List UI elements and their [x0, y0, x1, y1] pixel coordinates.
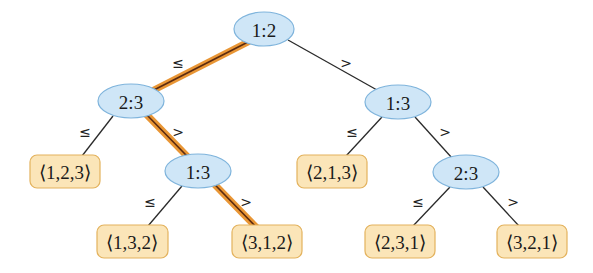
- edge-label-n4-l4: >: [240, 194, 252, 210]
- leaf-node-l6: ⟨3,2,1⟩: [497, 225, 567, 258]
- edge-label-n1-n3: >: [340, 55, 352, 71]
- svg-text:1:3: 1:3: [386, 93, 410, 114]
- svg-text:2:3: 2:3: [454, 163, 478, 184]
- leaf-node-l5: ⟨2,3,1⟩: [365, 225, 435, 258]
- internal-node-n1: 1:2: [234, 12, 294, 46]
- svg-text:⟨1,3,2⟩: ⟨1,3,2⟩: [106, 232, 158, 253]
- edge-label-n3-l2: ≤: [346, 124, 358, 140]
- svg-text:⟨2,1,3⟩: ⟨2,1,3⟩: [306, 162, 358, 183]
- svg-text:2:3: 2:3: [119, 92, 143, 113]
- decision-tree-diagram: ≤ > ≤ > ≤ > ≤ > ≤ > 1:2 2:3 1:3 1:3 2:3: [0, 0, 593, 273]
- leaf-node-l2: ⟨2,1,3⟩: [297, 155, 367, 188]
- svg-text:1:2: 1:2: [252, 20, 276, 41]
- edge-label-n2-l1: ≤: [79, 124, 91, 140]
- svg-text:⟨2,3,1⟩: ⟨2,3,1⟩: [374, 232, 426, 253]
- edge-label-n2-n4: >: [172, 124, 184, 140]
- leaf-node-l3: ⟨1,3,2⟩: [97, 225, 168, 258]
- edge-label-n4-l3: ≤: [144, 194, 156, 210]
- leaf-node-l1: ⟨1,2,3⟩: [30, 155, 100, 188]
- edge-label-n1-n2: ≤: [172, 55, 184, 71]
- edge-label-n5-l5: ≤: [412, 194, 424, 210]
- leaf-node-l4: ⟨3,1,2⟩: [232, 225, 302, 258]
- edge-label-n5-l6: >: [507, 194, 519, 210]
- svg-text:1:3: 1:3: [186, 162, 210, 183]
- internal-node-n3: 1:3: [365, 85, 431, 119]
- internal-node-n4: 1:3: [165, 154, 231, 188]
- svg-text:⟨3,1,2⟩: ⟨3,1,2⟩: [241, 232, 293, 253]
- internal-node-n2: 2:3: [98, 84, 164, 118]
- edge-label-n3-n5: >: [439, 124, 451, 140]
- svg-text:⟨3,2,1⟩: ⟨3,2,1⟩: [506, 232, 558, 253]
- internal-node-n5: 2:3: [433, 155, 499, 189]
- edge-n1-n3: [288, 40, 377, 90]
- svg-text:⟨1,2,3⟩: ⟨1,2,3⟩: [39, 162, 91, 183]
